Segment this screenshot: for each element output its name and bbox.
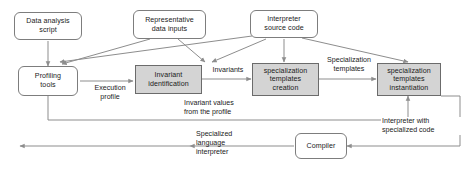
edge-label-interpreter-specialized-code: Interpreter with specialized code [381,117,465,135]
node-representative-data-inputs[interactable]: Representative data inputs [133,10,206,39]
node-label: Compiler [296,142,346,151]
node-label: Profiling tools [19,72,77,89]
node-data-analysis-script[interactable]: Data analysis script [14,12,82,40]
node-invariant-identification[interactable]: Invariant identification [135,65,202,94]
edge-label-invariant-values: Invariant values from the profile [183,99,281,117]
edge-interp-to-profiling [60,36,252,62]
diagram-canvas: Data analysis script Representative data… [0,0,474,170]
edge-interp-to-invariant [212,39,266,62]
node-templates-instantiation[interactable]: specialization templates instantiation [377,63,441,96]
node-label: specialization templates creation [253,67,318,93]
node-templates-creation[interactable]: specialization templates creation [252,63,319,96]
node-label: specialization templates instantiation [378,67,440,93]
node-profiling-tools[interactable]: Profiling tools [18,66,78,96]
node-interpreter-source-code[interactable]: Interpreter source code [250,10,318,38]
edge-label-specialization-templates-top: Specialization templates [319,56,379,74]
edge-label-execution-profile: Execution profile [82,84,138,102]
node-label: Interpreter source code [251,15,317,32]
node-compiler[interactable]: Compiler [295,133,347,159]
output-specialized-language-interpreter: Specialized language interpreter [196,130,258,158]
edge-label-invariants: Invariants [203,66,253,75]
node-label: Representative data inputs [134,16,205,33]
node-label: Data analysis script [15,17,81,34]
node-label: Invariant identification [136,71,201,88]
